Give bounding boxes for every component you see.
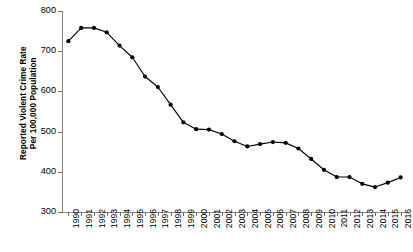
data-point (79, 26, 83, 30)
data-point (399, 175, 403, 179)
data-point (130, 55, 134, 59)
data-point (245, 144, 249, 148)
data-point (360, 182, 364, 186)
data-point (335, 175, 339, 179)
data-point (284, 141, 288, 145)
data-point (105, 30, 109, 34)
data-point (143, 74, 147, 78)
data-point (232, 139, 236, 143)
data-point (258, 142, 262, 146)
data-point (117, 43, 121, 47)
data-point (220, 132, 224, 136)
data-point (66, 39, 70, 43)
data-point (92, 26, 96, 30)
data-point (271, 140, 275, 144)
data-point (296, 146, 300, 150)
data-point (322, 168, 326, 172)
violent-crime-rate-line-chart: Reported Violent Crime Rate Per 100,000 … (0, 0, 413, 252)
data-point (169, 103, 173, 107)
data-point (373, 185, 377, 189)
data-point (207, 127, 211, 131)
data-point (386, 181, 390, 185)
series-markers (66, 26, 402, 189)
data-point (347, 175, 351, 179)
data-point (194, 127, 198, 131)
data-point (181, 120, 185, 124)
series-line (68, 28, 400, 187)
data-point (309, 157, 313, 161)
plot-area (0, 0, 413, 252)
data-point (156, 85, 160, 89)
